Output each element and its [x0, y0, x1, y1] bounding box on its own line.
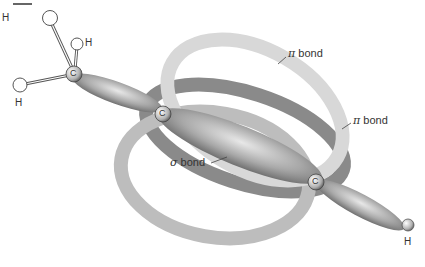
hydrogen-atom-2 [71, 38, 83, 50]
atom-label-c3: C [312, 176, 319, 186]
sigma-bond-label: σ bond [170, 156, 205, 169]
atom-label-h1: H [2, 12, 9, 23]
hydrogen-atom-4 [402, 219, 414, 231]
atom-label-h3: H [15, 97, 22, 108]
hydrogen-atom-1 [43, 11, 58, 26]
sigma-bond-text: bond [181, 156, 205, 168]
sigma-symbol: σ [170, 156, 178, 169]
sp-lobe-right [311, 172, 410, 238]
pi-bond-text-1: bond [298, 47, 322, 59]
pi-symbol: π [353, 114, 360, 127]
molecule-diagram [0, 0, 425, 267]
pi-bond-label-1: π bond [288, 47, 323, 60]
pi-bond-text-2: bond [363, 114, 387, 126]
atom-label-c2: C [159, 108, 166, 118]
pi-bond-label-2: π bond [353, 114, 388, 127]
atom-label-h2: H [85, 37, 92, 48]
pi-symbol: π [288, 47, 295, 60]
atom-label-c1: C [70, 68, 77, 78]
atom-label-h4: H [404, 236, 411, 247]
hydrogen-atom-3 [13, 78, 27, 92]
